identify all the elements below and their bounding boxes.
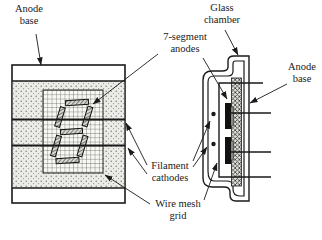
label-line: grid <box>155 210 200 222</box>
label-line: Glass <box>204 2 240 14</box>
anode-segment-lower <box>225 137 231 164</box>
arrow-anode-base-left <box>36 34 41 65</box>
side-view <box>203 56 271 201</box>
arrow-7segment-to-side <box>203 58 227 99</box>
label-line: base <box>15 15 43 27</box>
label-line: base <box>288 73 316 85</box>
label-wire-mesh-grid: Wire mesh grid <box>155 198 200 221</box>
label-line: Anode <box>288 61 316 73</box>
label-line: Filament <box>151 160 188 172</box>
segment-middle <box>60 128 82 135</box>
arrow-glass-chamber <box>225 30 238 55</box>
label-line: cathodes <box>151 172 188 184</box>
segment-top <box>65 99 88 106</box>
filament-dot-bottom <box>211 142 215 146</box>
arrow-anode-base-right <box>250 84 287 103</box>
label-line: chamber <box>204 14 240 26</box>
label-line: Anode <box>15 3 43 15</box>
label-line: 7-segment <box>163 31 207 43</box>
label-filament-cathodes: Filament cathodes <box>151 160 188 183</box>
filament-dot-top <box>211 112 215 116</box>
label-line: anodes <box>163 43 207 55</box>
anode-base-side <box>232 78 242 186</box>
label-anode-base-right: Anode base <box>288 61 316 84</box>
label-glass-chamber: Glass chamber <box>204 2 240 25</box>
arrow-filament-front-top <box>126 123 147 165</box>
segment-bottom <box>56 157 79 164</box>
label-anode-base-left: Anode base <box>15 3 43 26</box>
figure-canvas: Anode base Glass chamber 7-segment anode… <box>0 0 322 240</box>
label-line: Wire mesh <box>155 198 200 210</box>
front-view <box>12 65 125 203</box>
label-seven-segment-anodes: 7-segment anodes <box>163 31 207 54</box>
anode-segment-upper <box>225 103 231 129</box>
arrow-filament-front-bottom <box>128 148 147 174</box>
